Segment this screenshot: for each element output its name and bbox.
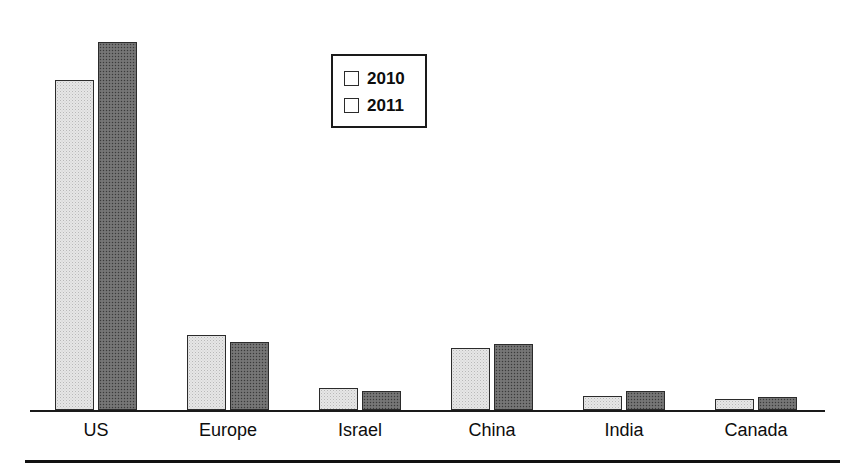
- bar-wrap-2010: 29.6: [55, 0, 94, 410]
- bar-groups: 29.6 32.6 US 6.7: [30, 0, 825, 474]
- bar-wrap-2010: 6.7: [187, 0, 226, 410]
- category-label-europe: Europe: [162, 420, 294, 441]
- bar-wrap-2011: 6.1: [230, 0, 269, 410]
- bar-2011[interactable]: [626, 391, 665, 410]
- legend-item-2010[interactable]: 2010: [344, 65, 425, 92]
- bar-pair: 6.7 6.1: [162, 0, 294, 410]
- legend-swatch-2010-icon: [344, 71, 359, 86]
- bar-wrap-2011: 1.5: [626, 0, 665, 410]
- bar-wrap-2011: 32.6: [98, 0, 137, 410]
- bar-group-canada: 0.9 1 Canada: [690, 0, 822, 474]
- figure-bottom-rule: [25, 460, 840, 463]
- bar-2010[interactable]: [451, 348, 490, 410]
- bar-group-europe: 6.7 6.1 Europe: [162, 0, 294, 474]
- category-label-us: US: [30, 420, 162, 441]
- bar-2011[interactable]: [494, 344, 533, 410]
- bar-2010[interactable]: [715, 399, 754, 410]
- bar-2010[interactable]: [583, 396, 622, 410]
- category-label-china: China: [426, 420, 558, 441]
- category-label-canada: Canada: [690, 420, 822, 441]
- bar-wrap-2010: 0.9: [715, 0, 754, 410]
- bar-chart: 29.6 32.6 US 6.7: [0, 0, 856, 474]
- bar-pair: 1.1 1.5: [558, 0, 690, 410]
- legend: 2010 2011: [331, 54, 427, 128]
- bar-wrap-2011: 5.9: [494, 0, 533, 410]
- category-label-israel: Israel: [294, 420, 426, 441]
- legend-item-2011[interactable]: 2011: [344, 92, 425, 119]
- legend-label: 2011: [367, 97, 404, 114]
- bar-group-china: 5.5 5.9 China: [426, 0, 558, 474]
- legend-swatch-2011-icon: [344, 98, 359, 113]
- bar-group-us: 29.6 32.6 US: [30, 0, 162, 474]
- bar-wrap-2011: 1: [758, 0, 797, 410]
- plot-area: 29.6 32.6 US 6.7: [0, 0, 856, 412]
- bar-group-india: 1.1 1.5 India: [558, 0, 690, 474]
- bar-wrap-2010: 1.1: [583, 0, 622, 410]
- bar-2011[interactable]: [98, 42, 137, 410]
- bar-pair: 0.9 1: [690, 0, 822, 410]
- category-axis-line: [30, 410, 825, 412]
- legend-label: 2010: [367, 70, 405, 87]
- bar-2011[interactable]: [362, 391, 401, 410]
- bar-pair: 29.6 32.6: [30, 0, 162, 410]
- bar-2011[interactable]: [758, 397, 797, 410]
- bar-2011[interactable]: [230, 342, 269, 410]
- bar-wrap-2010: 5.5: [451, 0, 490, 410]
- bar-2010[interactable]: [187, 335, 226, 410]
- category-label-india: India: [558, 420, 690, 441]
- bar-2010[interactable]: [55, 80, 94, 410]
- bar-pair: 5.5 5.9: [426, 0, 558, 410]
- bar-2010[interactable]: [319, 388, 358, 410]
